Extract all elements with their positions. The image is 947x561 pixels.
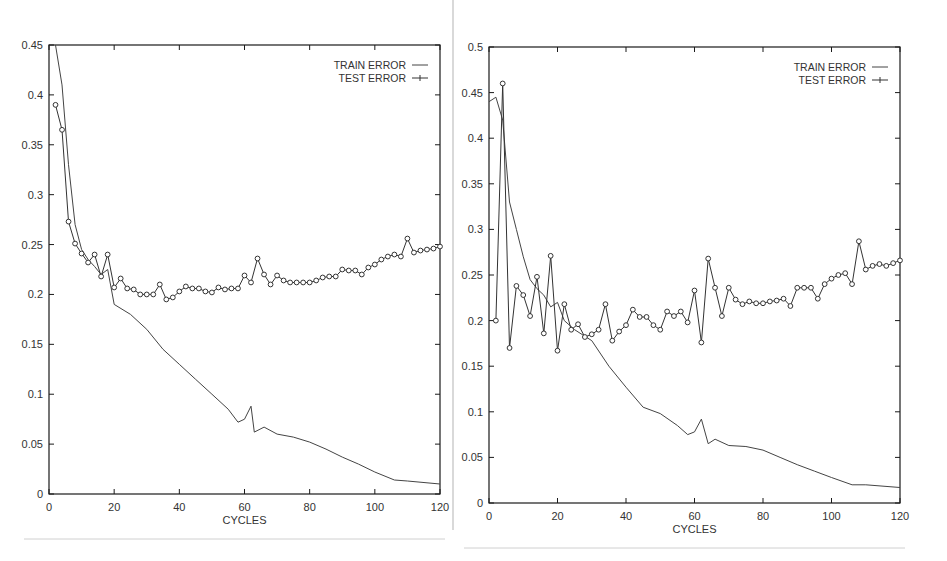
y-tick-label: 0.1 [468,406,483,418]
test-error-marker [412,250,417,255]
y-tick-label: 0.15 [22,338,43,350]
test-error-marker [857,239,862,244]
chart-right-svg: 00.050.10.150.20.250.30.350.40.450.50204… [455,0,947,561]
test-error-marker [733,297,738,302]
test-error-marker [164,297,169,302]
test-error-marker [637,315,642,320]
test-error-marker [877,262,882,267]
test-error-marker [589,332,594,337]
test-error-marker [747,299,752,304]
test-error-marker [255,256,260,261]
test-error-marker [118,276,123,281]
legend-test-label: TEST ERROR [339,72,407,84]
x-tick-label: 20 [108,501,120,513]
test-error-marker [125,286,130,291]
test-error-marker [353,268,358,273]
test-error-marker [112,285,117,290]
test-error-marker [385,254,390,259]
test-error-marker [210,290,215,295]
legend-test-label: TEST ERROR [799,74,867,86]
test-error-marker [99,274,104,279]
test-error-marker [366,265,371,270]
test-error-marker [802,285,807,290]
test-error-marker [541,331,546,336]
test-error-marker [216,285,221,290]
test-error-marker [699,340,704,345]
test-error-marker [569,327,574,332]
test-error-marker [66,219,71,224]
test-error-marker [493,318,498,323]
y-tick-label: 0.5 [468,41,483,53]
test-error-marker [528,314,533,319]
test-error-marker [809,285,814,290]
test-error-marker [644,315,649,320]
test-error-marker [514,284,519,289]
test-error-marker [131,287,136,292]
x-axis-label: CYCLES [222,514,266,526]
test-error-line [56,105,441,300]
test-error-marker [294,280,299,285]
test-error-marker [183,284,188,289]
test-error-marker [262,272,267,277]
test-error-marker [596,327,601,332]
x-tick-label: 80 [304,501,316,513]
test-error-marker [726,285,731,290]
test-error-marker [177,289,182,294]
test-error-marker [242,273,247,278]
test-error-marker [843,271,848,276]
panel-divider [452,0,454,530]
test-error-marker [405,236,410,241]
test-error-marker [781,296,786,301]
test-error-marker [788,304,793,309]
test-error-marker [138,292,143,297]
y-tick-label: 0.25 [462,269,483,281]
test-error-marker [288,280,293,285]
test-error-marker [500,81,505,86]
test-error-marker [706,256,711,261]
y-tick-label: 0.2 [28,288,43,300]
test-error-marker [438,244,443,249]
test-error-marker [73,241,78,246]
x-tick-label: 120 [891,510,909,522]
test-error-marker [157,282,162,287]
test-error-marker [144,292,149,297]
test-error-marker [884,263,889,268]
test-error-marker [236,286,241,291]
test-error-marker [624,323,629,328]
test-error-marker [713,285,718,290]
y-tick-label: 0.3 [468,223,483,235]
test-error-marker [151,292,156,297]
test-error-marker [346,268,351,273]
y-tick-label: 0.2 [468,315,483,327]
test-error-marker [92,252,97,257]
x-axis-label: CYCLES [672,523,716,535]
test-error-marker [196,286,201,291]
test-error-marker [275,273,280,278]
y-tick-label: 0.05 [462,451,483,463]
y-tick-label: 0.45 [462,87,483,99]
y-tick-label: 0.1 [28,388,43,400]
x-tick-label: 60 [238,501,250,513]
y-tick-label: 0.25 [22,239,43,251]
test-error-marker [79,251,84,256]
test-error-marker [815,296,820,301]
test-error-marker [535,274,540,279]
test-error-marker [190,286,195,291]
test-error-marker [333,274,338,279]
test-error-marker [555,348,560,353]
test-error-marker [320,275,325,280]
chart-right: 00.050.10.150.20.250.30.350.40.450.50204… [455,0,947,561]
test-error-marker [610,338,615,343]
y-tick-label: 0.4 [28,89,43,101]
test-error-marker [658,327,663,332]
x-tick-label: 100 [366,501,384,513]
test-error-marker [829,276,834,281]
test-error-marker [562,302,567,307]
test-error-marker [850,282,855,287]
test-error-marker [603,302,608,307]
test-error-marker [379,257,384,262]
x-tick-label: 100 [822,510,840,522]
test-error-marker [314,278,319,283]
test-error-marker [767,299,772,304]
x-tick-label: 60 [688,510,700,522]
